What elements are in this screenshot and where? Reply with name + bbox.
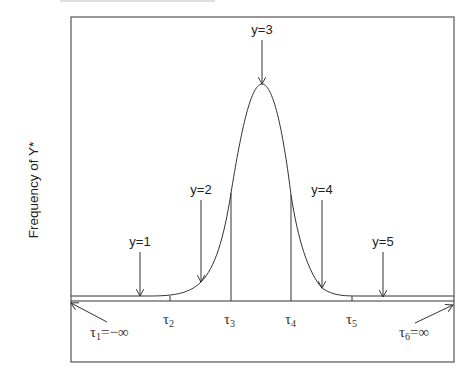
tau5-label: τ5: [346, 311, 357, 329]
tau6-arrow: [415, 305, 453, 323]
tau1-label: τ1=−∞: [90, 324, 129, 342]
y2-label: y=2: [190, 182, 211, 197]
tau6-label: τ6=∞: [399, 324, 429, 342]
y-axis-label: Frequency of Y*: [26, 141, 41, 238]
tau1-arrow: [71, 303, 107, 322]
y1-label: y=1: [129, 234, 150, 249]
density-curve: [71, 84, 454, 296]
y4-label: y=4: [311, 182, 332, 197]
tau3-label: τ3: [224, 311, 235, 329]
latent-variable-threshold-diagram: Frequency of Y* y=1 y=2 y=3 y=4 y=5 τ1=−…: [0, 0, 471, 384]
tau2-label: τ2: [163, 311, 174, 329]
tau4-label: τ4: [285, 311, 296, 329]
y3-label: y=3: [251, 22, 272, 37]
y5-label: y=5: [372, 234, 393, 249]
